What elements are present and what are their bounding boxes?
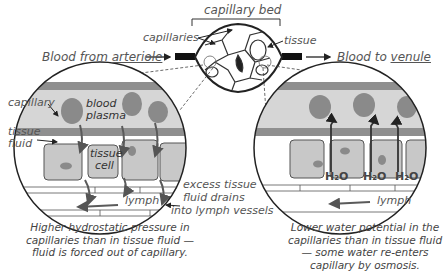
- blood-plasma-label: bloodplasma: [86, 98, 126, 122]
- blood-to-venule-label: Blood to venule: [337, 51, 431, 63]
- lymph-label-left: lymph: [125, 195, 159, 207]
- lymph-label-right: lymph: [377, 195, 411, 207]
- excess-fluid-label: excess tissuefluid drainsinto lymph vess…: [183, 178, 274, 217]
- tissue-cell-label: tissuecell: [90, 148, 123, 172]
- water-label-1: H₂O: [325, 171, 348, 183]
- right-caption: Lower water potential in thecapillaries …: [285, 221, 444, 271]
- tissue-label: tissue: [284, 35, 317, 47]
- venule-vessel: [282, 53, 302, 60]
- capillary-bed-label: capillary bed: [204, 4, 281, 16]
- water-label-2: H₂O: [363, 171, 386, 183]
- left-caption: Higher hydrostatic pressure incapillarie…: [20, 221, 200, 259]
- capillary-bed-illustration: [195, 24, 282, 92]
- capillary-label: capillary: [8, 97, 55, 109]
- water-label-3: H₂O: [395, 171, 418, 183]
- blood-from-arteriole-label: Blood from arteriole: [42, 51, 162, 63]
- arteriole-term: arteriole: [112, 50, 163, 64]
- venule-term: venule: [391, 50, 431, 64]
- tissue-fluid-label: tissuefluid: [8, 126, 41, 150]
- capillaries-label: capillaries: [143, 32, 199, 44]
- arteriole-vessel: [175, 53, 195, 60]
